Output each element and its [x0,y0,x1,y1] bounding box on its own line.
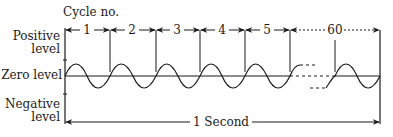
cycle-label-3: 3 [173,23,181,37]
waveform-diagram: 1 2 3 4 5 60 1 Second [0,0,393,137]
cycle-label-1: 1 [83,23,91,37]
cycle-label-5: 5 [263,23,271,37]
cycle-label-2: 2 [128,23,136,37]
one-second-label: 1 Second [193,115,249,129]
cycle-label-60: 60 [327,23,342,37]
cycle-label-4: 4 [218,23,226,37]
